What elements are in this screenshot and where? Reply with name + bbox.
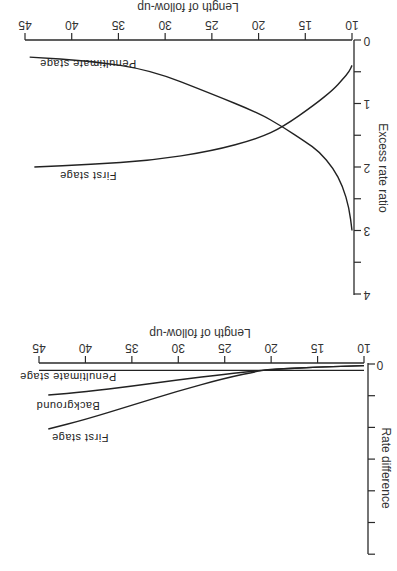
series-line-penultimate-stage	[30, 57, 352, 230]
y-tick-label: 3	[363, 224, 370, 238]
x-tick-label: 15	[298, 18, 312, 32]
figure: 1015202530354045 01234 Length of follow-…	[0, 0, 397, 571]
x-tick-label: 30	[171, 341, 185, 355]
series-label: First stage	[60, 170, 117, 182]
rate-difference-chart: 1015202530354045 0 Length of follow-up R…	[20, 326, 393, 554]
x-tick-label: 40	[65, 18, 79, 32]
series-label: Penultimate stage	[40, 58, 137, 70]
x-tick-label: 35	[125, 341, 139, 355]
x-tick-label: 15	[311, 341, 325, 355]
x-tick-label: 20	[264, 341, 278, 355]
x-tick-label: 45	[18, 18, 32, 32]
x-axis-title: Length of follow-up	[137, 0, 239, 14]
y-axis-title: Rate difference	[379, 427, 393, 508]
x-tick-label: 10	[345, 18, 359, 32]
x-axis-title: Length of follow-up	[149, 326, 251, 340]
y-tick-label: 0	[363, 34, 370, 48]
x-tick-label: 25	[218, 341, 232, 355]
excess-rate-ratio-chart: 1015202530354045 01234 Length of follow-…	[18, 0, 390, 302]
x-tick-label: 30	[158, 18, 172, 32]
y-tick-label: 4	[363, 288, 370, 302]
x-tick-label: 35	[111, 18, 125, 32]
series-label: Penultimate stage	[20, 371, 117, 383]
x-tick-label: 45	[32, 341, 46, 355]
x-tick-label: 25	[205, 18, 219, 32]
x-tick-label: 20	[252, 18, 266, 32]
x-tick-label: 40	[78, 341, 92, 355]
series-label: First stage	[52, 432, 109, 444]
series-label: Background	[36, 400, 100, 412]
x-tick-label: 10	[357, 341, 371, 355]
y-tick-label: 1	[363, 97, 370, 111]
series-line-first-stage	[34, 65, 352, 167]
y-tick-label: 2	[363, 161, 370, 175]
y-tick-label: 0	[376, 358, 383, 372]
y-axis-title: Excess rate ratio	[376, 123, 390, 213]
